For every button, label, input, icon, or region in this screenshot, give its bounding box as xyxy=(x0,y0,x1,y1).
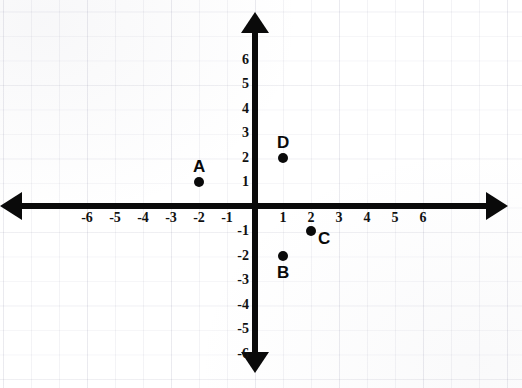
point-marker-b xyxy=(278,251,288,261)
y-axis-up-arrowhead-icon xyxy=(241,12,269,33)
y-tick-label-neg4: -4 xyxy=(225,298,249,312)
x-tick-label-neg6: -6 xyxy=(75,211,99,225)
point-marker-a xyxy=(194,177,204,187)
y-axis-line xyxy=(252,31,258,355)
x-tick-label-3: 3 xyxy=(327,211,351,225)
x-tick-label-neg5: -5 xyxy=(103,211,127,225)
point-label-d: D xyxy=(277,134,289,151)
point-marker-d xyxy=(278,153,288,163)
x-tick-label-2: 2 xyxy=(299,211,323,225)
y-tick-label-neg6: -6 xyxy=(225,347,249,361)
coordinate-plane: -6-5-4-3-2-1123456 654321-1-2-3-4-5-6 AB… xyxy=(0,0,522,388)
x-tick-label-1: 1 xyxy=(271,211,295,225)
y-tick-label-1: 1 xyxy=(225,175,249,189)
x-tick-label-neg2: -2 xyxy=(187,211,211,225)
x-tick-label-neg4: -4 xyxy=(131,211,155,225)
x-tick-label-neg3: -3 xyxy=(159,211,183,225)
background-smudge xyxy=(0,0,522,388)
y-tick-label-3: 3 xyxy=(225,126,249,140)
y-tick-label-6: 6 xyxy=(225,53,249,67)
y-tick-label-neg5: -5 xyxy=(225,322,249,336)
x-axis-left-arrowhead-icon xyxy=(0,192,22,220)
point-label-a: A xyxy=(193,158,205,175)
point-label-c: C xyxy=(318,230,330,247)
x-tick-label-4: 4 xyxy=(355,211,379,225)
y-tick-label-neg2: -2 xyxy=(225,249,249,263)
y-tick-label-2: 2 xyxy=(225,151,249,165)
x-tick-label-neg1: -1 xyxy=(215,211,239,225)
point-label-b: B xyxy=(277,264,289,281)
x-axis-right-arrowhead-icon xyxy=(486,192,508,220)
point-marker-c xyxy=(306,226,316,236)
y-tick-label-4: 4 xyxy=(225,102,249,116)
y-tick-label-neg3: -3 xyxy=(225,273,249,287)
y-tick-label-neg1: -1 xyxy=(225,224,249,238)
x-tick-label-5: 5 xyxy=(383,211,407,225)
x-tick-label-6: 6 xyxy=(411,211,435,225)
y-tick-label-5: 5 xyxy=(225,77,249,91)
